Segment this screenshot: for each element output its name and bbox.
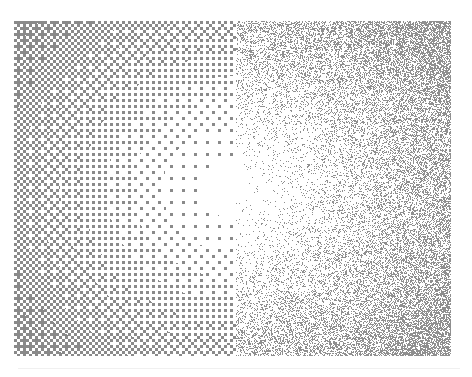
dithering-comparison-image: [14, 21, 451, 356]
figure-root: Dithering method comparison Side-by-side…: [0, 0, 472, 377]
horizontal-separator-rule: [18, 368, 460, 369]
